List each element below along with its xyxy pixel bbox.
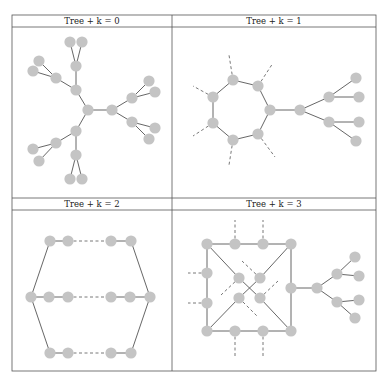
graph-node: [254, 272, 265, 283]
graph-node: [353, 270, 364, 281]
graph-node: [233, 292, 244, 303]
graph-node: [350, 135, 361, 146]
graph-node: [252, 128, 263, 139]
graph-node: [353, 116, 364, 127]
graph-node: [252, 80, 263, 91]
graph-node: [229, 238, 240, 249]
graph-node: [33, 55, 44, 66]
graph-node: [124, 291, 135, 302]
graph-node: [285, 238, 296, 249]
graph-node: [207, 91, 218, 102]
panel-title-k3: Tree + k = 3: [246, 199, 301, 209]
graph-node: [105, 347, 116, 358]
graph-node: [233, 272, 244, 283]
edge: [31, 241, 50, 297]
graph-node: [70, 84, 81, 95]
graph-node: [126, 92, 137, 103]
graph-node: [76, 173, 87, 184]
graph-node: [27, 143, 38, 154]
graph-node: [201, 238, 212, 249]
graph-node: [254, 292, 265, 303]
graph-node: [201, 325, 212, 336]
graph-node: [125, 347, 136, 358]
graph-node: [331, 268, 342, 279]
graph-node: [349, 312, 360, 323]
graph-node: [227, 74, 238, 85]
graph-node: [207, 117, 218, 128]
graph-node: [106, 104, 117, 115]
panel-title-k2: Tree + k = 2: [64, 199, 119, 209]
graph-node: [285, 282, 296, 293]
graph-node: [201, 267, 212, 278]
graph-node: [64, 36, 75, 47]
graph-node: [350, 72, 361, 83]
graph-node: [311, 282, 322, 293]
edge: [131, 241, 150, 297]
graph-node: [353, 294, 364, 305]
edge: [131, 297, 150, 353]
graph-panel-k1: [193, 55, 365, 165]
figure-table: Tree + k = 0 Tree + k = 1 Tree + k = 2 T…: [0, 0, 389, 385]
graph-node: [201, 297, 212, 308]
graph-node: [64, 173, 75, 184]
panel-title-k1: Tree + k = 1: [246, 16, 301, 26]
graph-node: [33, 155, 44, 166]
edge: [31, 297, 50, 353]
graph-node: [285, 325, 296, 336]
graph-node: [62, 291, 73, 302]
graph-node: [105, 291, 116, 302]
panel-title-k0: Tree + k = 0: [64, 16, 119, 26]
graph-panel-k2: [25, 235, 155, 358]
graph-node: [62, 235, 73, 246]
graph-node: [149, 122, 160, 133]
table-grid: [12, 15, 376, 371]
graph-node: [50, 72, 61, 83]
graph-node: [125, 235, 136, 246]
graph-node: [70, 125, 81, 136]
graph-node: [70, 60, 81, 71]
graph-node: [50, 137, 61, 148]
graph-node: [76, 36, 87, 47]
graph-node: [353, 91, 364, 102]
graph-node: [257, 325, 268, 336]
graph-node: [144, 291, 155, 302]
graph-node: [44, 347, 55, 358]
graph-node: [143, 75, 154, 86]
graph-node: [149, 86, 160, 97]
graph-node: [294, 104, 305, 115]
graph-node: [44, 235, 55, 246]
graph-node: [143, 133, 154, 144]
graph-node: [323, 91, 334, 102]
graph-node: [227, 134, 238, 145]
graph-node: [70, 149, 81, 160]
graph-node: [323, 116, 334, 127]
graph-node: [43, 291, 54, 302]
graph-node: [126, 116, 137, 127]
graph-node: [82, 104, 93, 115]
graph-node: [105, 235, 116, 246]
graph-node: [257, 238, 268, 249]
graph-node: [229, 325, 240, 336]
graph-panel-k3: [188, 220, 365, 356]
graph-node: [349, 251, 360, 262]
graph-node: [25, 291, 36, 302]
graph-panel-k0: [27, 36, 160, 184]
graph-node: [264, 104, 275, 115]
graph-node: [27, 65, 38, 76]
graph-node: [331, 296, 342, 307]
graph-node: [62, 347, 73, 358]
